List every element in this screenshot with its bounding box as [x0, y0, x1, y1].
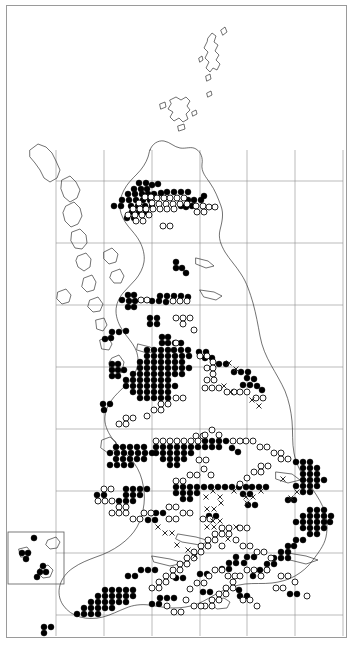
record-dot-filled — [160, 456, 166, 462]
record-dot-filled — [94, 492, 100, 498]
record-dot-open — [158, 407, 164, 413]
record-dot-open — [254, 549, 260, 555]
record-dot-filled — [278, 549, 284, 555]
record-dot-filled — [151, 347, 157, 353]
record-dot-filled — [144, 395, 150, 401]
record-dot-filled — [263, 484, 269, 490]
record-dot-filled — [188, 444, 194, 450]
record-dot-open — [206, 204, 212, 210]
record-dot-filled — [120, 456, 126, 462]
record-dot-filled — [151, 365, 157, 371]
record-dot-open — [201, 466, 207, 472]
record-dot-filled — [144, 377, 150, 383]
record-dot-open — [251, 567, 257, 573]
record-dot-open — [198, 603, 204, 609]
record-dot-filled — [158, 383, 164, 389]
record-dot-open — [191, 555, 197, 561]
record-dot-filled — [307, 489, 313, 495]
record-dot-open — [278, 573, 284, 579]
record-dot-open — [230, 579, 236, 585]
record-dot-filled — [130, 383, 136, 389]
record-dot-filled — [165, 340, 171, 346]
record-dot-filled — [314, 471, 320, 477]
record-dot-open — [167, 438, 173, 444]
record-dot-open — [167, 223, 173, 229]
record-dot-open — [230, 438, 236, 444]
record-dot-filled — [179, 353, 185, 359]
record-dot-open — [151, 407, 157, 413]
record-dot-filled — [257, 567, 263, 573]
record-cross-mark — [281, 477, 285, 481]
record-dot-filled — [144, 371, 150, 377]
record-dot-filled — [130, 587, 136, 593]
record-dot-filled — [321, 513, 327, 519]
record-dot-open — [173, 395, 179, 401]
record-dot-filled — [114, 450, 120, 456]
record-dot-open — [116, 421, 122, 427]
record-dot-filled — [48, 624, 54, 630]
record-dot-filled — [31, 535, 37, 541]
record-dot-open — [240, 543, 246, 549]
record-dot-filled — [143, 180, 149, 186]
record-dot-filled — [185, 189, 191, 195]
record-dot-filled — [165, 347, 171, 353]
record-dot-open — [177, 567, 183, 573]
record-dot-open — [170, 567, 176, 573]
record-dot-filled — [152, 517, 158, 523]
record-dot-filled — [180, 490, 186, 496]
record-dot-open — [130, 516, 136, 522]
record-dot-filled — [185, 347, 191, 353]
record-dot-filled — [167, 462, 173, 468]
record-cross-mark — [156, 525, 160, 529]
record-cross-mark — [205, 507, 209, 511]
record-dot-open — [180, 395, 186, 401]
record-dot-open — [212, 567, 218, 573]
record-dot-open — [163, 573, 169, 579]
record-dot-filled — [174, 444, 180, 450]
record-dot-filled — [285, 497, 291, 503]
record-dot-open — [166, 516, 172, 522]
record-dot-filled — [144, 383, 150, 389]
record-dot-filled — [131, 304, 137, 310]
record-dot-filled — [126, 298, 132, 304]
record-dot-filled — [233, 554, 239, 560]
record-dot-open — [216, 591, 222, 597]
record-dot-filled — [125, 304, 131, 310]
record-cross-mark — [218, 495, 222, 499]
record-dot-open — [204, 365, 210, 371]
record-dot-filled — [244, 375, 250, 381]
record-dot-filled — [131, 292, 137, 298]
record-dot-filled — [116, 593, 122, 599]
record-dot-filled — [144, 486, 150, 492]
record-dot-open — [205, 543, 211, 549]
record-dot-filled — [222, 484, 228, 490]
record-dot-filled — [293, 519, 299, 525]
record-dot-filled — [307, 507, 313, 513]
record-dot-filled — [300, 489, 306, 495]
record-dot-filled — [173, 265, 179, 271]
record-dot-open — [244, 525, 250, 531]
record-dot-filled — [291, 497, 297, 503]
record-dot-filled — [307, 459, 313, 465]
record-dot-filled — [231, 369, 237, 375]
record-dot-filled — [300, 465, 306, 471]
coastline-layer — [59, 27, 327, 619]
record-cross-mark — [226, 537, 230, 541]
record-cross-mark — [175, 543, 179, 547]
record-dot-open — [178, 609, 184, 615]
record-cross-mark — [257, 404, 261, 408]
record-dot-filled — [213, 513, 219, 519]
record-dot-filled — [300, 513, 306, 519]
record-dot-open — [237, 525, 243, 531]
record-dot-open — [244, 475, 250, 481]
record-dot-filled — [307, 525, 313, 531]
record-dot-filled — [123, 599, 129, 605]
record-dot-open — [125, 212, 131, 218]
record-dot-open — [285, 456, 291, 462]
record-dot-open — [138, 297, 144, 303]
record-dot-filled — [285, 543, 291, 549]
record-cross-mark — [212, 525, 216, 529]
record-dot-filled — [216, 361, 222, 367]
record-dot-filled — [108, 335, 114, 341]
record-dot-filled — [127, 456, 133, 462]
